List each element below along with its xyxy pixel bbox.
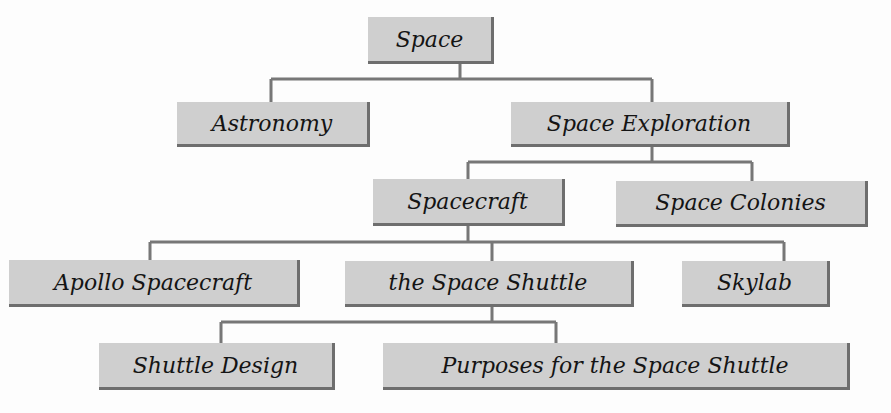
node-space-colonies: Space Colonies bbox=[616, 181, 868, 227]
node-label: Space bbox=[396, 27, 464, 52]
connector-spacecraft bbox=[150, 225, 784, 261]
node-label: Spacecraft bbox=[407, 189, 528, 214]
connector-space-shuttle bbox=[221, 306, 556, 343]
node-label: Skylab bbox=[717, 270, 792, 295]
node-label: Space Exploration bbox=[547, 111, 751, 136]
topic-hierarchy-diagram: Space Astronomy Space Exploration Spacec… bbox=[0, 0, 891, 413]
node-astronomy: Astronomy bbox=[177, 102, 370, 147]
node-shuttle-design: Shuttle Design bbox=[99, 343, 335, 390]
node-label: Astronomy bbox=[212, 111, 332, 136]
connector-space-exploration bbox=[468, 146, 752, 181]
node-space-shuttle: the Space Shuttle bbox=[345, 261, 634, 307]
node-label: the Space Shuttle bbox=[389, 270, 588, 295]
node-label: Space Colonies bbox=[655, 190, 825, 215]
connector-space bbox=[271, 63, 652, 102]
node-label: Apollo Spacecraft bbox=[54, 270, 252, 295]
node-space-exploration: Space Exploration bbox=[511, 102, 790, 147]
node-skylab: Skylab bbox=[682, 261, 830, 307]
node-apollo-spacecraft: Apollo Spacecraft bbox=[9, 260, 300, 307]
node-label: Shuttle Design bbox=[133, 353, 298, 378]
node-spacecraft: Spacecraft bbox=[373, 179, 565, 226]
node-label: Purposes for the Space Shuttle bbox=[441, 353, 788, 378]
node-purposes-for-the-space-shuttle: Purposes for the Space Shuttle bbox=[383, 343, 850, 390]
node-space: Space bbox=[368, 17, 494, 64]
